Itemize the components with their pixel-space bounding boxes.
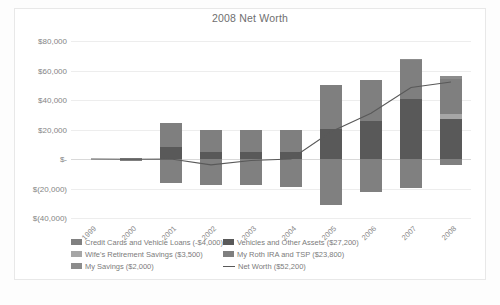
bar-segment[interactable] bbox=[200, 130, 222, 153]
bar-segment[interactable] bbox=[320, 159, 342, 205]
bar-group[interactable] bbox=[231, 41, 271, 218]
legend-label: Net Worth ($52,200) bbox=[238, 262, 306, 271]
legend-row: Credit Cards and Vehicle Loans (-$4,000)… bbox=[71, 236, 411, 248]
bar-segment[interactable] bbox=[160, 147, 182, 159]
legend-item[interactable]: Credit Cards and Vehicle Loans (-$4,000) bbox=[71, 238, 223, 247]
bar-group[interactable] bbox=[111, 41, 151, 218]
bar-segment[interactable] bbox=[440, 79, 462, 114]
legend-item[interactable]: Net Worth ($52,200) bbox=[223, 262, 403, 271]
bar-segment[interactable] bbox=[440, 114, 462, 119]
bar-group[interactable] bbox=[431, 41, 471, 218]
bar-segment[interactable] bbox=[280, 130, 302, 152]
bar-segment[interactable] bbox=[320, 129, 342, 159]
y-axis-tick-label: $80,000 bbox=[9, 37, 67, 46]
y-axis-tick-label: $(20,000) bbox=[9, 184, 67, 193]
y-axis-tick-label: $60,000 bbox=[9, 66, 67, 75]
bar-segment[interactable] bbox=[200, 152, 222, 159]
legend-label: Wife's Retirement Savings ($3,500) bbox=[85, 250, 203, 259]
legend-label: My Savings ($2,000) bbox=[85, 262, 154, 271]
legend-label: Vehicles and Other Assets ($27,200) bbox=[237, 238, 359, 247]
legend-color-swatch-icon bbox=[223, 251, 234, 257]
chart-legend: Credit Cards and Vehicle Loans (-$4,000)… bbox=[71, 236, 411, 272]
bar-group[interactable] bbox=[71, 41, 111, 218]
legend-color-swatch-icon bbox=[71, 251, 82, 257]
gridline bbox=[71, 218, 471, 219]
bar-segment[interactable] bbox=[360, 80, 382, 121]
legend-color-swatch-icon bbox=[71, 239, 82, 245]
chart-title: 2008 Net Worth bbox=[0, 12, 500, 24]
bar-segment[interactable] bbox=[360, 159, 382, 192]
y-axis-tick-label: $40,000 bbox=[9, 96, 67, 105]
bar-segment[interactable] bbox=[360, 121, 382, 159]
bar-segment[interactable] bbox=[280, 152, 302, 159]
bar-segment[interactable] bbox=[240, 130, 262, 153]
legend-item[interactable]: Wife's Retirement Savings ($3,500) bbox=[71, 250, 223, 259]
bar-segment[interactable] bbox=[240, 159, 262, 185]
bar-segment[interactable] bbox=[440, 159, 462, 165]
legend-line-swatch-icon bbox=[223, 266, 235, 267]
legend-row: My Savings ($2,000)Net Worth ($52,200) bbox=[71, 260, 411, 272]
bar-segment[interactable] bbox=[320, 85, 342, 129]
bar-segment[interactable] bbox=[120, 159, 142, 161]
bar-segment[interactable] bbox=[440, 76, 462, 79]
bar-group[interactable] bbox=[151, 41, 191, 218]
legend-label: My Roth IRA and TSP ($23,800) bbox=[237, 250, 344, 259]
plot-area: $80,000$60,000$40,000$20,000$-$(20,000)$… bbox=[71, 41, 471, 218]
bar-segment[interactable] bbox=[280, 159, 302, 187]
net-worth-chart: 2008 Net Worth $80,000$60,000$40,000$20,… bbox=[0, 0, 500, 305]
legend-row: Wife's Retirement Savings ($3,500)My Rot… bbox=[71, 248, 411, 260]
y-axis-tick-label: $20,000 bbox=[9, 125, 67, 134]
bar-group[interactable] bbox=[191, 41, 231, 218]
legend-item[interactable]: My Savings ($2,000) bbox=[71, 262, 223, 271]
bar-segment[interactable] bbox=[400, 60, 422, 99]
legend-label: Credit Cards and Vehicle Loans (-$4,000) bbox=[85, 238, 223, 247]
bar-segment[interactable] bbox=[400, 59, 422, 60]
bar-group[interactable] bbox=[271, 41, 311, 218]
bar-segment[interactable] bbox=[400, 99, 422, 159]
bar-segment[interactable] bbox=[120, 158, 142, 159]
bar-group[interactable] bbox=[351, 41, 391, 218]
bar-segment[interactable] bbox=[440, 119, 462, 159]
bar-segment[interactable] bbox=[400, 159, 422, 188]
bar-segment[interactable] bbox=[160, 123, 182, 147]
bar-segment[interactable] bbox=[240, 152, 262, 159]
y-axis-tick-label: $(40,000) bbox=[9, 214, 67, 223]
legend-color-swatch-icon bbox=[223, 239, 234, 245]
bar-segment[interactable] bbox=[200, 159, 222, 185]
y-axis-tick-label: $- bbox=[9, 155, 67, 164]
bar-group[interactable] bbox=[391, 41, 431, 218]
bar-group[interactable] bbox=[311, 41, 351, 218]
bar-segment[interactable] bbox=[160, 159, 182, 183]
legend-color-swatch-icon bbox=[71, 263, 82, 269]
legend-item[interactable]: Vehicles and Other Assets ($27,200) bbox=[223, 238, 403, 247]
legend-item[interactable]: My Roth IRA and TSP ($23,800) bbox=[223, 250, 403, 259]
